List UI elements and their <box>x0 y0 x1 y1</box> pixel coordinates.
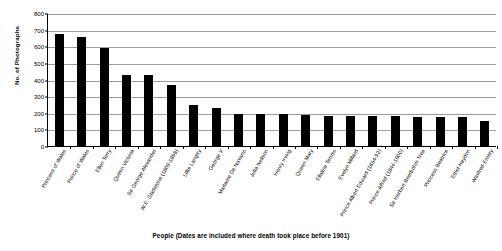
y-tick-label: 0 <box>41 144 44 150</box>
bar-slot <box>160 14 182 146</box>
y-tick-label: 600 <box>34 44 44 50</box>
y-tick-label: 800 <box>34 11 44 17</box>
bar-slot <box>429 14 451 146</box>
x-tick-label: Henry Irving <box>272 148 292 177</box>
bar <box>55 34 64 146</box>
bar <box>212 108 221 146</box>
bar <box>480 121 489 146</box>
bar <box>122 75 131 146</box>
bar-slot <box>205 14 227 146</box>
x-axis-title: People (Dates are included where death t… <box>0 232 502 239</box>
bars-container <box>48 14 496 146</box>
bar-slot <box>451 14 473 146</box>
bar-chart: No. of Photographs 010020030040050060070… <box>0 0 502 251</box>
x-tick-label: Evelyn Millard <box>337 148 359 181</box>
bar-slot <box>407 14 429 146</box>
bar-slot <box>474 14 496 146</box>
x-tick-label: Ellen Terry <box>94 148 112 173</box>
x-tick-label: Prince Albert Edward (1864-92) <box>338 148 382 217</box>
bar-slot <box>138 14 160 146</box>
bar <box>436 117 445 146</box>
x-tick-label: Lillie Langtry <box>181 148 202 178</box>
bar <box>324 116 333 146</box>
bar-slot <box>294 14 316 146</box>
bar <box>167 85 176 146</box>
bar-slot <box>70 14 92 146</box>
x-tick-label: Ethel Haydon <box>450 148 472 180</box>
y-tick-label: 400 <box>34 78 44 84</box>
bar <box>144 75 153 146</box>
x-tick-label: Princess Beatrice <box>422 148 449 188</box>
x-axis-labels: Princess of WalesPrince of WalesEllen Te… <box>47 148 495 226</box>
x-tick-label: Winifred Emery <box>470 148 494 184</box>
bar <box>234 114 243 146</box>
x-tick-label: George V <box>208 148 225 171</box>
x-tick-label: Julia Neilson <box>249 148 270 178</box>
bar-slot <box>339 14 361 146</box>
bar-slot <box>317 14 339 146</box>
y-tick-label: 300 <box>34 94 44 100</box>
y-tick-label: 100 <box>34 127 44 133</box>
bar-slot <box>182 14 204 146</box>
x-tick-label: Queen Mary <box>294 148 314 177</box>
bar-slot <box>48 14 70 146</box>
bar-slot <box>384 14 406 146</box>
bar <box>413 117 422 146</box>
bar-slot <box>227 14 249 146</box>
y-tick-label: 200 <box>34 111 44 117</box>
bar-slot <box>250 14 272 146</box>
bar <box>279 114 288 146</box>
bar <box>77 37 86 146</box>
x-tick-mark <box>497 146 498 149</box>
bar <box>346 116 355 146</box>
y-tick-label: 500 <box>34 61 44 67</box>
x-tick-label: Princess of Wales <box>40 148 67 189</box>
x-tick-label: Ellaline Terriss <box>314 148 337 182</box>
x-tick-label: Prince of Wales <box>66 148 90 184</box>
bar <box>100 48 109 146</box>
bar <box>189 105 198 146</box>
x-tick-label: Queen Victoria <box>111 148 134 182</box>
bar-slot <box>115 14 137 146</box>
bar <box>458 117 467 146</box>
bar <box>256 114 265 146</box>
y-tick-label: 700 <box>34 28 44 34</box>
bar <box>391 116 400 146</box>
y-axis-title: No. of Photographs <box>13 0 20 116</box>
bar-slot <box>362 14 384 146</box>
bar-slot <box>272 14 294 146</box>
bar <box>368 116 377 146</box>
bar-slot <box>93 14 115 146</box>
plot-area: 0100200300400500600700800 <box>47 14 496 147</box>
bar <box>301 115 310 146</box>
